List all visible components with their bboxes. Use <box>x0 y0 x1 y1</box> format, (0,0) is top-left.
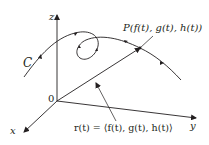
point-P-label: P(f(t), g(t), h(t)) <box>122 22 202 33</box>
point-P-leader <box>140 36 153 48</box>
space-curve-diagram: z y x 0 C P(f(t), g(t), h(t)) r(t) = ⟨f(… <box>0 0 209 145</box>
x-axis <box>24 101 57 132</box>
position-vector-label: r(t) = ⟨f(t), g(t), h(t)⟩ <box>74 122 173 133</box>
z-axis-label: z <box>48 11 55 22</box>
origin-label: 0 <box>48 93 54 104</box>
curve-direction-arrow <box>74 32 78 36</box>
curve-label-C: C <box>23 56 32 70</box>
curve-C <box>24 32 181 80</box>
x-axis-label: x <box>10 125 16 136</box>
vector-label-leader <box>96 83 116 121</box>
y-axis <box>57 101 196 118</box>
y-axis-label: y <box>189 120 196 131</box>
position-vector-r <box>57 48 140 101</box>
